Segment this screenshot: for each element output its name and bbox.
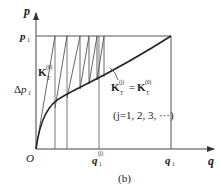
origin-label: O: [26, 152, 34, 164]
load-displacement-curve: [36, 36, 171, 149]
svg-text:1: 1: [172, 161, 175, 167]
svg-text:(0): (0): [46, 64, 53, 71]
j-range-label: (j=1, 2, 3, ···): [113, 109, 174, 122]
svg-text:p: p: [19, 30, 26, 42]
q1-label: q 1: [165, 154, 175, 167]
svg-text:q: q: [165, 154, 171, 166]
svg-text:1: 1: [99, 161, 102, 167]
svg-text:1: 1: [27, 37, 30, 43]
delta-p1-label: Δ p 1: [14, 83, 31, 96]
kt-equation: K (j) T = K (0) T: [111, 79, 152, 96]
svg-text:T: T: [146, 90, 150, 96]
svg-text:(j): (j): [98, 150, 103, 157]
svg-text:p: p: [20, 83, 27, 95]
svg-text:(0): (0): [145, 79, 152, 86]
figure-caption: (b): [118, 172, 131, 185]
kt0-label: K (0) T: [38, 64, 53, 81]
svg-text:T: T: [120, 90, 124, 96]
x-axis-label: q: [208, 154, 214, 168]
q1j-label: q (j) 1: [92, 150, 103, 167]
p1-label: p 1: [19, 30, 30, 43]
y-axis-label: p: [23, 4, 30, 18]
svg-text:1: 1: [28, 90, 31, 96]
svg-text:=: =: [129, 81, 135, 93]
svg-text:(j): (j): [119, 79, 124, 86]
svg-text:T: T: [47, 75, 51, 81]
modified-newton-diagram: p q O p 1 Δ p 1 K (0) T K (j) T = K (0) …: [0, 0, 221, 190]
